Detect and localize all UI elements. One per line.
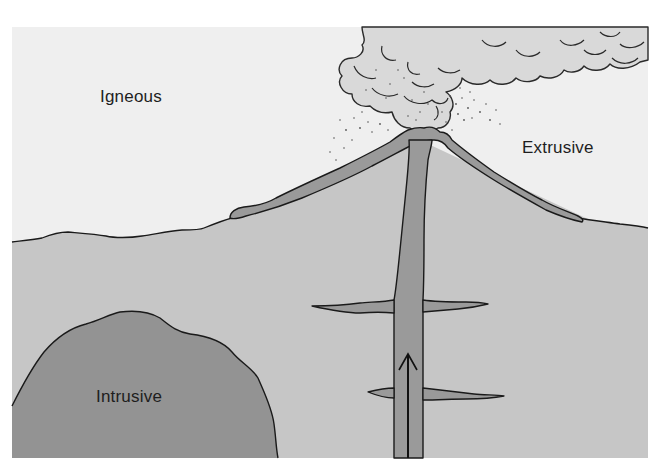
label-extrusive: Extrusive: [522, 138, 594, 158]
label-igneous: Igneous: [100, 87, 162, 107]
label-intrusive: Intrusive: [96, 387, 162, 407]
